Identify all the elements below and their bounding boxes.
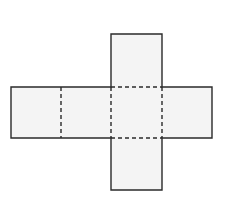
face-left-1 xyxy=(11,87,61,138)
face-right xyxy=(162,87,212,138)
face-center xyxy=(111,87,162,138)
face-top xyxy=(111,34,162,87)
face-bottom xyxy=(111,138,162,190)
face-left-2 xyxy=(61,87,111,138)
cube-net-diagram xyxy=(0,0,230,202)
